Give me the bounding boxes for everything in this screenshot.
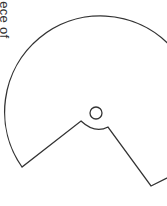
sector-outline bbox=[5, 16, 167, 186]
cut-circle-figure bbox=[0, 0, 167, 206]
center-hole bbox=[90, 107, 102, 119]
